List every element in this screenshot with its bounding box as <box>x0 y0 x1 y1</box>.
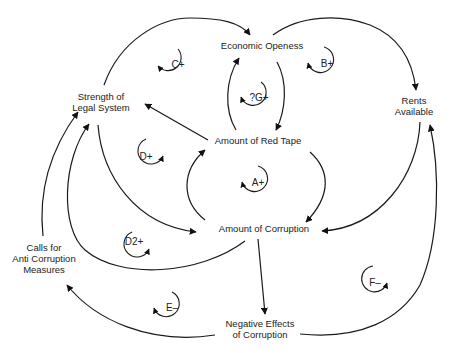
loop-marker-f: F– <box>362 266 387 292</box>
edge-negative-to-calls <box>67 285 215 337</box>
edge-corruption-to-redtape <box>187 150 205 220</box>
edge-legal-to-corruption <box>98 125 196 232</box>
loop-marker-b: B+ <box>308 47 334 73</box>
svg-text:Strength of: Strength of <box>78 91 125 102</box>
loop-marker-c: C+ <box>158 49 185 71</box>
causal-loop-diagram: Economic Openess Strength of Legal Syste… <box>0 0 459 353</box>
svg-text:Measures: Measures <box>23 264 65 275</box>
svg-text:C+: C+ <box>171 59 184 70</box>
svg-text:Anti Corruption: Anti Corruption <box>12 253 75 264</box>
svg-text:Legal System: Legal System <box>72 102 130 113</box>
svg-text:Rents: Rents <box>402 95 427 106</box>
svg-text:A+: A+ <box>252 177 265 188</box>
edge-redtape-to-legal <box>145 104 208 140</box>
node-rents-available: Rents Available <box>395 95 433 117</box>
edge-openness-to-redtape <box>276 62 284 130</box>
node-negative-effects: Negative Effects of Corruption <box>225 318 294 340</box>
loop-marker-g: ?G+ <box>241 82 269 105</box>
svg-text:E–: E– <box>166 302 179 313</box>
loop-marker-e: E– <box>154 292 179 317</box>
svg-text:F–: F– <box>369 277 381 288</box>
edge-calls-to-legal <box>42 112 78 236</box>
loop-marker-a: A+ <box>242 166 268 192</box>
edge-openness-to-rents <box>273 18 416 90</box>
node-strength-legal-system: Strength of Legal System <box>72 91 130 113</box>
edge-rents-to-corruption <box>322 122 420 231</box>
svg-text:?G+: ?G+ <box>249 92 268 103</box>
svg-text:Calls for: Calls for <box>27 242 62 253</box>
node-economic-openness: Economic Openess <box>221 40 304 51</box>
loop-marker-d: D+ <box>138 139 163 164</box>
node-amount-corruption: Amount of Corruption <box>219 223 309 234</box>
loop-marker-d2: D2+ <box>124 232 149 257</box>
edge-redtape-to-openness <box>228 58 239 130</box>
svg-text:Available: Available <box>395 106 433 117</box>
node-amount-red-tape: Amount of Red Tape <box>215 135 301 146</box>
svg-text:B+: B+ <box>321 58 334 69</box>
svg-text:of Corruption: of Corruption <box>233 329 288 340</box>
edge-negative-to-rents <box>300 125 437 335</box>
svg-text:D2+: D2+ <box>125 236 144 247</box>
edge-legal-to-openness <box>104 18 250 85</box>
node-calls-anti-corruption: Calls for Anti Corruption Measures <box>12 242 75 275</box>
edge-redtape-to-corruption <box>306 152 325 222</box>
svg-text:D+: D+ <box>139 151 152 162</box>
svg-text:Negative Effects: Negative Effects <box>225 318 294 329</box>
edge-corruption-to-negative <box>258 239 265 314</box>
